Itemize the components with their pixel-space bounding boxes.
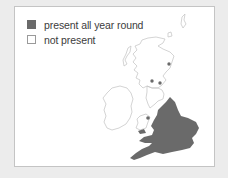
hebrides-outline: [123, 46, 131, 66]
marker-central-scotland-west: [150, 79, 153, 82]
filled-region-england: [130, 97, 199, 160]
orkney-outline: [168, 32, 172, 37]
distribution-map: [0, 0, 228, 178]
marker-aberdeenshire: [167, 62, 170, 65]
shetland-outline: [181, 14, 186, 28]
marker-wales: [146, 116, 150, 120]
marker-central-scotland-east: [158, 81, 161, 84]
ireland-outline: [103, 86, 133, 130]
northern-england-outline: [146, 86, 164, 108]
